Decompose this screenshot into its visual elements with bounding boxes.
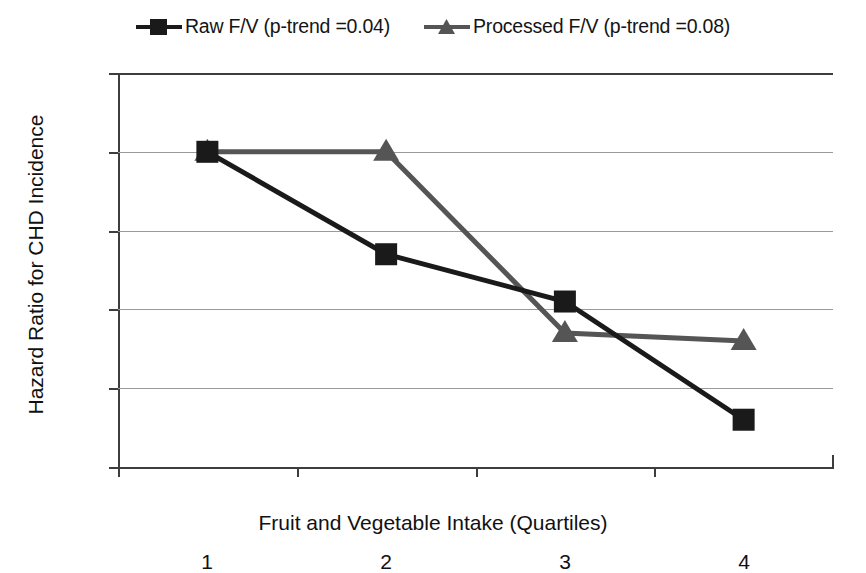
legend-square-marker-icon	[136, 16, 182, 38]
data-point-square	[733, 409, 755, 431]
x-tick-label-3: 3	[559, 551, 571, 572]
chart-legend: Raw F/V (p-trend =0.04) Processed F/V (p…	[0, 16, 866, 38]
legend-label-processed: Processed F/V (p-trend =0.08)	[473, 17, 730, 37]
y-tick-mark-0-8	[109, 309, 118, 311]
x-axis-title: Fruit and Vegetable Intake (Quartiles)	[0, 512, 866, 533]
x-tick-label-2: 2	[380, 551, 392, 572]
series-line	[207, 152, 743, 420]
y-tick-mark-1-1	[109, 73, 118, 75]
series-processed-fv	[194, 139, 756, 350]
y-tick-mark-1	[109, 152, 118, 154]
x-tick-label-1: 1	[201, 551, 213, 572]
data-point-square	[554, 291, 576, 313]
y-tick-mark-0-9	[109, 231, 118, 233]
x-tick-mark-start	[118, 467, 120, 477]
legend-entry-processed: Processed F/V (p-trend =0.08)	[424, 16, 730, 38]
x-tick-mark-3	[654, 467, 656, 477]
y-axis-title: Hazard Ratio for CHD Incidence	[25, 55, 46, 475]
series-layer	[118, 73, 833, 467]
legend-triangle-marker-icon	[424, 16, 470, 38]
y-tick-mark-0-6	[109, 467, 118, 469]
x-tick-label-4: 4	[738, 551, 750, 572]
plot-area: 1 2 3 4	[118, 73, 833, 467]
data-point-square	[196, 141, 218, 163]
legend-entry-raw: Raw F/V (p-trend =0.04)	[136, 16, 390, 38]
series-raw-fv	[196, 141, 754, 431]
y-tick-mark-0-7	[109, 388, 118, 390]
data-point-square	[375, 243, 397, 265]
x-tick-mark-2	[476, 467, 478, 477]
legend-label-raw: Raw F/V (p-trend =0.04)	[185, 17, 390, 37]
x-tick-mark-1	[297, 467, 299, 477]
series-line	[207, 152, 743, 341]
